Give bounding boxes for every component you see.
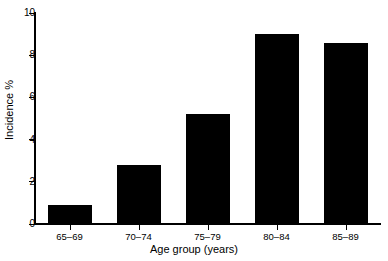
bar: [186, 114, 230, 224]
x-tick-label: 75–79: [173, 231, 243, 242]
y-tick-label-wrap: 8: [0, 50, 35, 60]
bar: [255, 34, 299, 224]
y-tick-label-wrap: 0: [0, 219, 35, 229]
x-tick-label: 65–69: [35, 231, 105, 242]
x-tick-mark: [208, 225, 209, 230]
y-tick-label-wrap: 4: [0, 135, 35, 145]
y-tick-label: 8: [11, 50, 35, 60]
y-tick-label-wrap: 6: [0, 92, 35, 102]
x-tick-mark: [139, 225, 140, 230]
x-tick-label: 70–74: [104, 231, 174, 242]
plot-area: [35, 13, 380, 224]
x-tick-mark: [346, 225, 347, 230]
x-tick-mark: [277, 225, 278, 230]
bar-chart: Incidence % 0246810 65–6970–7475–7980–84…: [0, 0, 388, 261]
bar: [117, 165, 161, 224]
x-axis-title: Age group (years): [0, 243, 388, 256]
y-axis-title: Incidence %: [3, 45, 15, 175]
y-tick-label-wrap: 10: [0, 8, 35, 18]
y-tick-label: 6: [11, 92, 35, 102]
y-tick-label: 2: [11, 177, 35, 187]
x-tick-label: 80–84: [242, 231, 312, 242]
x-tick-label: 85–89: [311, 231, 381, 242]
x-tick-mark: [70, 225, 71, 230]
y-tick-label: 4: [11, 135, 35, 145]
y-tick-label: 0: [11, 219, 35, 229]
bar: [48, 205, 92, 224]
y-tick-label: 10: [11, 8, 35, 18]
bar: [324, 43, 368, 224]
y-tick-label-wrap: 2: [0, 177, 35, 187]
